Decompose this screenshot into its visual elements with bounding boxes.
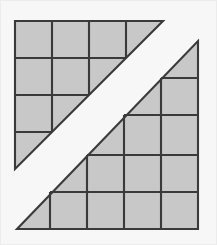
- figure-canvas: [0, 0, 217, 245]
- staircase-triangles-diagram: [0, 0, 217, 245]
